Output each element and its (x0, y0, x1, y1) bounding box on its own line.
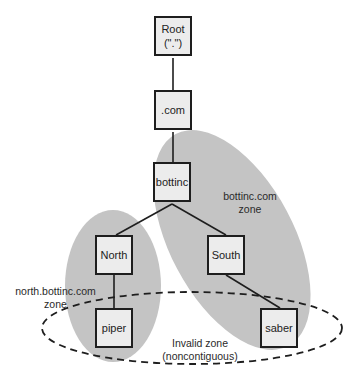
node-root: Root(".") (154, 16, 192, 56)
node-north: North (95, 235, 133, 275)
north-zone-label: north.bottinc.com zone (8, 285, 103, 311)
node-saber: saber (260, 308, 298, 348)
node-bottinc: bottinc (153, 162, 191, 202)
invalid-zone-label: Invalid zone (noncontiguous) (150, 337, 250, 363)
node-south: South (207, 235, 245, 275)
node-com: .com (154, 90, 192, 130)
node-piper: piper (95, 308, 133, 348)
bottinc-zone-label: bottinc.com zone (210, 190, 290, 216)
